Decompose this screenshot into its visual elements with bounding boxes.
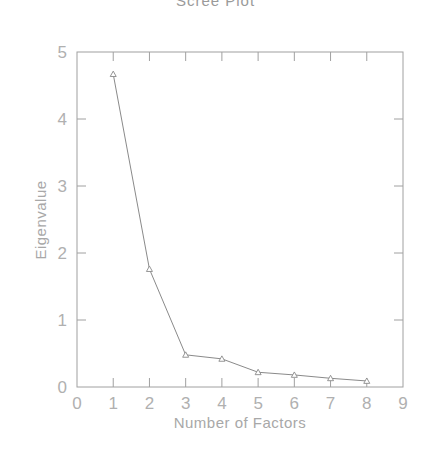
y-tick-label: 1: [58, 311, 67, 330]
y-tick-label: 5: [58, 43, 67, 62]
x-tick-label: 9: [398, 394, 407, 413]
series-line: [113, 74, 367, 381]
x-axis-title: Number of Factors: [174, 414, 307, 431]
x-tick-label: 4: [217, 394, 226, 413]
y-tick-labels: 012345: [58, 43, 67, 397]
x-tick-label: 2: [145, 394, 154, 413]
triangle-marker: [183, 352, 189, 357]
x-tick-label: 8: [362, 394, 371, 413]
plot-frame: [77, 52, 403, 387]
x-tick-label: 3: [181, 394, 190, 413]
axis-ticks: [77, 52, 403, 387]
x-tick-label: 6: [290, 394, 299, 413]
x-tick-label: 7: [326, 394, 335, 413]
scree-plot: 0123456789 012345 Number of Factors Eige…: [0, 0, 431, 459]
y-tick-label: 2: [58, 244, 67, 263]
plot-border: [77, 52, 403, 387]
x-tick-labels: 0123456789: [72, 394, 407, 413]
data-series: [110, 71, 370, 383]
x-tick-label: 5: [253, 394, 262, 413]
y-tick-label: 4: [58, 110, 67, 129]
x-tick-label: 0: [72, 394, 81, 413]
y-axis-title: Eigenvalue: [32, 180, 49, 259]
triangle-marker: [146, 266, 152, 271]
x-tick-label: 1: [108, 394, 117, 413]
y-tick-label: 0: [58, 378, 67, 397]
triangle-marker: [110, 71, 116, 76]
y-tick-label: 3: [58, 177, 67, 196]
